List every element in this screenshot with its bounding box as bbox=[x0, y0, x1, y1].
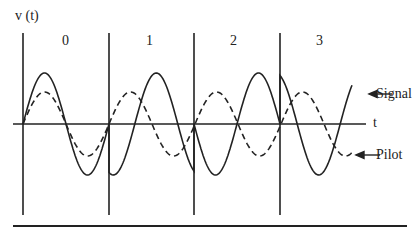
interval-label-3: 3 bbox=[316, 34, 323, 48]
interval-label-0: 0 bbox=[62, 34, 69, 48]
interval-label-1: 1 bbox=[146, 34, 153, 48]
y-axis-label: v (t) bbox=[15, 9, 39, 23]
legend-pilot-label: Pilot bbox=[376, 148, 402, 162]
pilot-arrowhead-icon bbox=[356, 152, 364, 159]
x-axis-label: t bbox=[373, 116, 377, 130]
legend-signal-label: Signal bbox=[376, 87, 412, 101]
psk-waveform-diagram: v (t) t 0 1 2 3 Signal Pilot bbox=[0, 0, 415, 231]
interval-label-2: 2 bbox=[230, 34, 237, 48]
